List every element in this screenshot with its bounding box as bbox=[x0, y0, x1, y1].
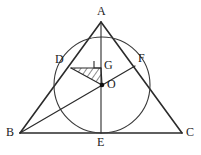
label-point-e: E bbox=[97, 136, 104, 148]
right-angle-marker-g bbox=[94, 61, 101, 68]
segment-bf bbox=[20, 66, 135, 133]
label-point-b: B bbox=[6, 126, 14, 138]
geometry-figure: A B C D E F G O bbox=[0, 0, 201, 155]
label-point-f: F bbox=[138, 52, 145, 64]
point-marker-o bbox=[100, 83, 105, 88]
figure-canvas bbox=[0, 0, 201, 155]
label-point-a: A bbox=[97, 5, 106, 17]
label-point-c: C bbox=[186, 126, 194, 138]
label-point-d: D bbox=[55, 53, 64, 65]
label-point-g: G bbox=[104, 59, 113, 71]
label-point-o: O bbox=[107, 78, 116, 90]
